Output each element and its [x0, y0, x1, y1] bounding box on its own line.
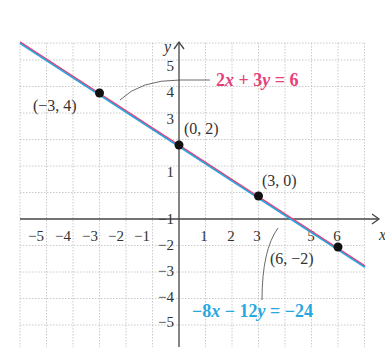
leader-eq1 [120, 80, 210, 100]
point-label-3: (3, 0) [262, 172, 297, 190]
svg-text:−5: −5 [158, 314, 174, 330]
svg-text:−2: −2 [108, 228, 124, 244]
svg-text:2: 2 [227, 228, 235, 244]
svg-text:3: 3 [253, 228, 261, 244]
point-0-2 [175, 141, 184, 150]
svg-text:1: 1 [167, 164, 175, 180]
line-eq1 [20, 42, 365, 266]
svg-text:−2: −2 [158, 237, 174, 253]
graph: y x −5 −4 −3 −2 −1 1 2 3 5 6 5 4 3 1 −1 … [0, 0, 385, 347]
y-axis-label: y [162, 38, 172, 56]
svg-text:−3: −3 [158, 263, 174, 279]
svg-text:1: 1 [200, 228, 208, 244]
point-6-neg2 [334, 243, 343, 252]
point-neg3-4 [95, 89, 104, 98]
svg-text:−1: −1 [158, 211, 174, 227]
point-3-0 [254, 192, 263, 201]
equation-2: −8x − 12y = −24 [192, 301, 313, 321]
equation-1: 2x + 3y = 6 [216, 70, 299, 90]
svg-text:−4: −4 [55, 228, 71, 244]
svg-text:6: 6 [333, 228, 341, 244]
svg-text:−3: −3 [82, 228, 98, 244]
svg-text:4: 4 [167, 84, 175, 100]
svg-text:−1: −1 [134, 228, 150, 244]
svg-text:3: 3 [167, 111, 175, 127]
svg-text:5: 5 [167, 58, 175, 74]
x-tick-labels: −5 −4 −3 −2 −1 1 2 3 5 6 [28, 228, 341, 244]
y-tick-labels: 5 4 3 1 −1 −2 −3 −4 −5 [158, 58, 174, 330]
svg-text:−5: −5 [28, 228, 44, 244]
point-label-2: (0, 2) [184, 120, 219, 138]
line-eq2 [20, 43, 365, 267]
x-axis-label: x [378, 226, 385, 243]
svg-text:−4: −4 [158, 289, 174, 305]
point-label-1: (−3, 4) [33, 97, 77, 115]
point-label-4: (6, −2) [270, 250, 314, 268]
